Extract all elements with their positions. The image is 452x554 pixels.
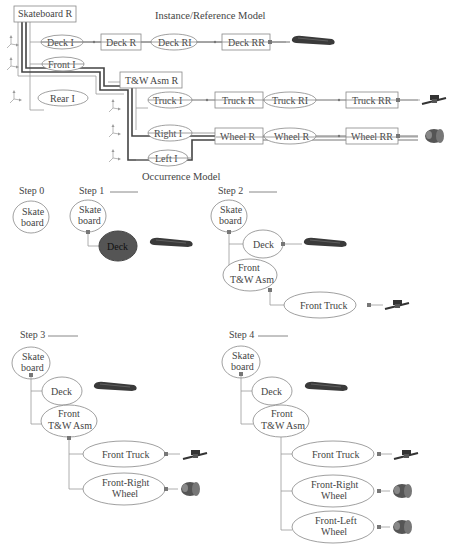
- wheel-part-image: [181, 482, 200, 496]
- front-right-label-1: Front-Right: [102, 477, 149, 488]
- tw-asm-r-label: T&W Asm R: [125, 75, 178, 86]
- axis-icon: [7, 57, 19, 70]
- axis-icon: [7, 35, 19, 48]
- skateboard-label-2: board: [21, 217, 44, 228]
- reference-model: Instance/Reference Model Skateboard R De…: [7, 6, 446, 166]
- wheel-part-image: [393, 520, 412, 534]
- deck-label: Deck: [107, 241, 128, 252]
- truck-part-image: [385, 300, 409, 309]
- occurrence-model: Occurrence Model Step 0 Skate board Step…: [12, 171, 418, 543]
- step-3-label: Step 3: [20, 329, 45, 340]
- occurrence-model-title: Occurrence Model: [142, 171, 220, 182]
- wheel-part-image: [425, 129, 444, 143]
- deck-label: Deck: [261, 386, 282, 397]
- deck-part-image: [94, 382, 137, 391]
- front-left-label-2: Wheel: [321, 526, 347, 537]
- truck-part-image: [394, 450, 418, 459]
- front-truck-label: Front Truck: [300, 300, 348, 311]
- deck-part-image: [304, 238, 347, 247]
- front-left-label-1: Front-Left: [315, 515, 357, 526]
- step-0: Step 0 Skate board: [13, 185, 49, 233]
- step-0-label: Step 0: [19, 185, 44, 196]
- step-2-label: Step 2: [218, 185, 243, 196]
- deck-label: Deck: [51, 386, 72, 397]
- front-truck-label: Front Truck: [102, 449, 150, 460]
- skateboard-label-2: board: [78, 215, 101, 226]
- deck-label: Deck: [253, 239, 274, 250]
- wheel-ri-label: Wheel R: [274, 131, 310, 142]
- skateboard-label-2: board: [219, 215, 242, 226]
- skateboard-label-2: board: [231, 361, 254, 372]
- step-1: Step 1 Skate board Deck: [70, 185, 193, 261]
- wheel-rr-label: Wheel RR: [351, 131, 393, 142]
- truck-part-image: [183, 450, 207, 459]
- truck-part-image: [422, 95, 446, 104]
- front-tw-label-1: Front: [58, 408, 80, 419]
- step-4: Step 4 Skate board Deck Front T&W Asm Fr…: [222, 329, 418, 543]
- skateboard-label-2: board: [21, 362, 44, 373]
- skateboard-label-1: Skate: [220, 204, 243, 215]
- front-tw-label-1: Front: [238, 262, 260, 273]
- skateboard-r-label: Skateboard R: [18, 8, 72, 19]
- step-3: Step 3 Skate board Deck Front T&W Asm Fr…: [12, 329, 207, 505]
- step-1-label: Step 1: [79, 185, 104, 196]
- deck-part-image: [305, 382, 348, 391]
- skateboard-label-1: Skate: [79, 204, 102, 215]
- wheel-part-image: [393, 484, 412, 498]
- front-right-label-1: Front-Right: [311, 479, 358, 490]
- rear-i-label: Rear I: [50, 93, 75, 104]
- front-truck-label: Front Truck: [312, 449, 360, 460]
- skateboard-label-1: Skate: [22, 206, 45, 217]
- wheel-r-label: Wheel R: [220, 131, 256, 142]
- skateboard-label-1: Skate: [22, 351, 45, 362]
- step-2: Step 2 Skate board Deck Front T&W Asm Fr…: [211, 185, 409, 318]
- axis-icon: [109, 149, 121, 162]
- front-right-label-2: Wheel: [112, 488, 138, 499]
- axis-icon: [109, 124, 121, 137]
- skateboard-label-1: Skate: [232, 350, 255, 361]
- diagram-canvas: Instance/Reference Model Skateboard R De…: [0, 0, 452, 554]
- front-tw-label-1: Front: [271, 408, 293, 419]
- reference-model-title: Instance/Reference Model: [155, 10, 266, 21]
- front-tw-label-2: T&W Asm: [261, 420, 305, 431]
- front-tw-label-2: T&W Asm: [230, 274, 274, 285]
- front-tw-label-2: T&W Asm: [48, 420, 92, 431]
- deck-part-image: [292, 36, 335, 45]
- axis-icon: [10, 90, 22, 103]
- step-4-label: Step 4: [229, 329, 254, 340]
- front-right-label-2: Wheel: [321, 490, 347, 501]
- axis-icon: [109, 99, 121, 112]
- deck-part-image: [150, 238, 193, 247]
